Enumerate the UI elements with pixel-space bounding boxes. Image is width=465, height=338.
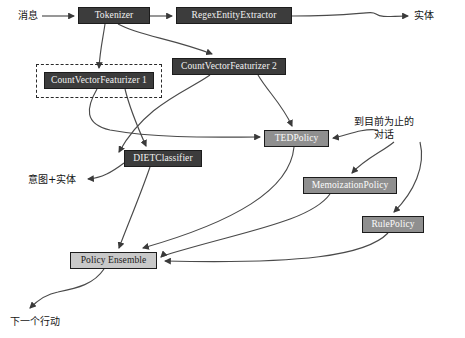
- node-memoization-policy-label: MemoizationPolicy: [312, 181, 389, 191]
- edge-diet-ensemble: [119, 167, 150, 248]
- label-input-message: 消息: [18, 10, 38, 23]
- edge-ensemble-next-action: [30, 269, 104, 308]
- node-rule-policy-label: RulePolicy: [371, 220, 414, 230]
- edge-rule-ensemble: [165, 233, 388, 262]
- node-policy-ensemble-label: Policy Ensemble: [81, 256, 147, 266]
- edge-regex-entity: [292, 13, 408, 17]
- edge-dialogue-rule: [394, 142, 422, 212]
- node-ted-policy[interactable]: TEDPolicy: [264, 130, 329, 147]
- edge-layer: [0, 0, 465, 338]
- label-next-action: 下一个行动: [10, 316, 60, 329]
- node-regex-entity-extractor-label: RegexEntityExtractor: [192, 11, 277, 21]
- node-regex-entity-extractor[interactable]: RegexEntityExtractor: [176, 7, 292, 24]
- node-diet-classifier-label: DIETClassifier: [133, 154, 192, 164]
- node-count-vector-featurizer-1-label: CountVectorFeaturizer 1: [51, 76, 147, 86]
- edge-tokenizer-cvf2: [118, 24, 212, 54]
- node-tokenizer[interactable]: Tokenizer: [78, 7, 150, 24]
- edge-tokenizer-cvf1: [99, 24, 105, 68]
- diagram-canvas: Tokenizer RegexEntityExtractor CountVect…: [0, 0, 465, 338]
- node-memoization-policy[interactable]: MemoizationPolicy: [303, 177, 397, 194]
- node-count-vector-featurizer-2[interactable]: CountVectorFeaturizer 2: [172, 58, 286, 75]
- label-intent-entity: 意图+实体: [28, 174, 76, 187]
- label-dialogue-state: 到目前为止的 对话: [354, 116, 414, 141]
- node-rule-policy[interactable]: RulePolicy: [362, 216, 424, 233]
- node-tokenizer-label: Tokenizer: [95, 11, 134, 21]
- edge-diet-intent: [88, 163, 124, 179]
- node-ted-policy-label: TEDPolicy: [275, 134, 319, 144]
- edge-dialogue-memoization: [352, 142, 394, 173]
- edge-cvf2-ted: [258, 75, 292, 126]
- node-count-vector-featurizer-2-label: CountVectorFeaturizer 2: [181, 62, 277, 72]
- node-diet-classifier[interactable]: DIETClassifier: [124, 150, 202, 167]
- edge-memoization-ensemble: [161, 194, 330, 257]
- label-entity-output: 实体: [414, 10, 434, 23]
- node-policy-ensemble[interactable]: Policy Ensemble: [70, 252, 157, 269]
- node-count-vector-featurizer-1[interactable]: CountVectorFeaturizer 1: [44, 72, 154, 89]
